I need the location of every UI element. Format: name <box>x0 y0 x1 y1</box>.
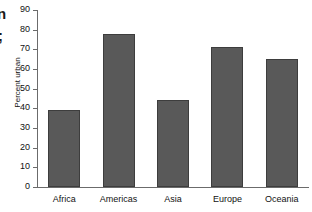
clipped-text-fragment-bottom: ; <box>0 28 3 43</box>
y-axis-tick-label: 90 <box>20 4 30 14</box>
y-axis-tick: 30 <box>33 128 37 129</box>
bar <box>211 47 243 187</box>
y-axis-tick-label: 50 <box>20 83 30 93</box>
y-axis-tick-label: 40 <box>20 102 30 112</box>
y-axis-tick: 0 <box>33 187 37 188</box>
clipped-text-fragment-top: n <box>0 6 6 21</box>
bar <box>103 34 135 187</box>
x-axis-tick-label: Oceania <box>242 194 312 204</box>
bar <box>157 100 189 187</box>
y-axis-tick-label: 70 <box>20 43 30 53</box>
bar-chart-figure: n ; Percent urban 0102030405060708090 Af… <box>0 0 312 212</box>
y-axis-tick-label: 20 <box>20 142 30 152</box>
y-axis-tick: 80 <box>33 30 37 31</box>
y-axis-tick-label: 30 <box>20 122 30 132</box>
plot-area: 0102030405060708090 AfricaAmericasAsiaEu… <box>37 10 309 188</box>
y-axis-tick-label: 80 <box>20 24 30 34</box>
y-axis-tick: 20 <box>33 148 37 149</box>
bar <box>266 59 298 187</box>
y-axis-tick-label: 10 <box>20 161 30 171</box>
y-axis-line <box>37 10 38 188</box>
y-axis-tick: 40 <box>33 108 37 109</box>
bar <box>48 110 80 187</box>
y-axis-tick: 60 <box>33 69 37 70</box>
y-axis-tick-label: 60 <box>20 63 30 73</box>
y-axis-tick: 10 <box>33 167 37 168</box>
y-axis-tick-label: 0 <box>25 181 30 191</box>
y-axis-tick: 90 <box>33 10 37 11</box>
x-axis-line <box>37 187 309 188</box>
y-axis-tick: 70 <box>33 49 37 50</box>
y-axis-tick: 50 <box>33 89 37 90</box>
